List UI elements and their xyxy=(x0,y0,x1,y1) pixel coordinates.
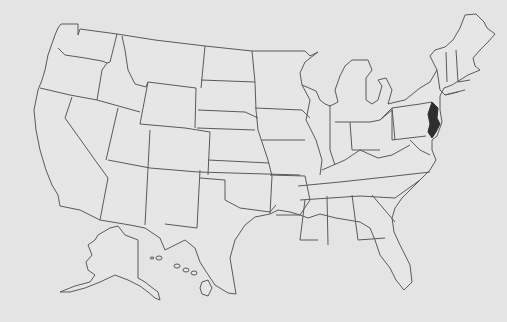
us-map xyxy=(0,0,507,322)
